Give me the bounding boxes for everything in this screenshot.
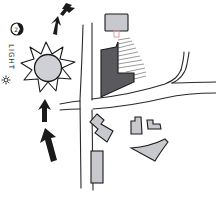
top-building (105, 14, 128, 31)
light-label: LIGHT (7, 42, 15, 72)
sun-icon (21, 42, 75, 92)
wedge-building (131, 139, 168, 161)
curved-branch-road (181, 52, 184, 70)
tall-rect-building (91, 151, 103, 183)
main-building-shaded (101, 42, 134, 97)
connector (114, 31, 119, 37)
stepped-building (90, 114, 113, 142)
site-light-diagram: 2 (0, 0, 216, 200)
horizontal-road (60, 101, 80, 104)
small-sun-icon (2, 76, 11, 85)
roads (60, 23, 216, 190)
north-compass-icon: 2 (11, 23, 23, 35)
svg-text:2: 2 (14, 26, 18, 33)
vertical-road (80, 25, 83, 188)
small-building-left (131, 117, 142, 134)
small-building-right (147, 120, 161, 129)
